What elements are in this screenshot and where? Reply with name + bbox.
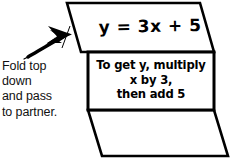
bottom-flap-panel: [88, 110, 228, 156]
fold-direction-arrow: [24, 26, 72, 59]
rule-label: To get y, multiply x by 3, then add 5: [92, 58, 210, 102]
fold-instruction-text: Fold top down and pass to partner.: [2, 59, 86, 120]
equation-label: y = 3x + 5: [95, 15, 205, 37]
